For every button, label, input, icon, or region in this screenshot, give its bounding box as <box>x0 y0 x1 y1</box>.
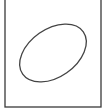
rectangle-frame <box>5 0 101 107</box>
ellipse-shape <box>9 12 97 94</box>
diagram-canvas <box>0 0 108 112</box>
